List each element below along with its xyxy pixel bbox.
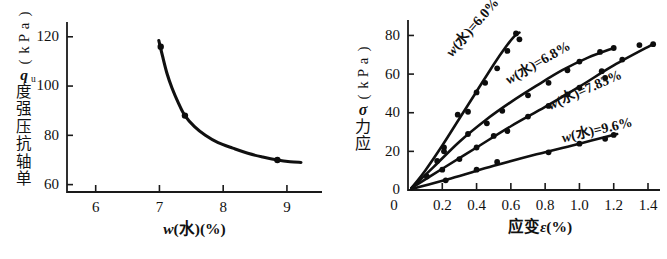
right-data-point [494,159,500,165]
right-data-point [565,67,571,73]
right-x-tick-label: 1.4 [639,197,658,213]
left-x-axis-title: w(水)(%) [163,219,226,238]
left-y-tick-label: 100 [37,77,60,93]
right-data-point [517,36,523,42]
right-series-group [411,45,616,188]
right-series-group [411,31,522,188]
right-data-point [650,41,656,47]
left-axes: 60801001206789 [37,22,323,215]
right-series-annotations: w(水)=6.0%w(水)=6.8%w(水)=7.83%w(水)=9.6% [442,0,634,146]
left-y-axis-title: 单轴抗压强度qu(kPa) [16,12,36,188]
left-y-axis-title-char: ( [16,60,33,65]
right-data-point [474,90,480,96]
right-data-point [441,148,447,154]
left-y-axis-title-char: k [16,46,32,54]
right-y-axis-title-char: ) [355,47,372,52]
chart-panel-right: 02040608000.20.40.60.81.01.21.4w(水)=6.0%… [330,0,667,259]
right-data-point [546,80,552,86]
right-x-tick-label: 1.2 [604,197,623,213]
left-y-axis-title-char: 轴 [16,153,32,170]
left-x-tick-label: 7 [156,199,164,215]
right-data-curve [411,134,617,189]
right-y-axis-title-char: P [355,69,371,77]
left-series-group [158,40,301,163]
right-data-point [443,177,449,183]
right-data-point [484,120,490,126]
right-x-tick-label: 1.0 [570,197,589,213]
left-x-tick-label: 6 [92,199,100,215]
right-data-point [546,149,552,155]
right-data-point [597,49,603,55]
right-y-tick-label: 0 [393,181,401,197]
right-data-point [525,92,531,98]
right-data-point [611,45,617,51]
right-data-point [474,145,480,151]
right-y-axis-title-char: k [355,81,371,89]
left-y-axis-title-char: a [16,22,32,29]
right-y-tick-label: 40 [385,104,400,120]
left-y-axis-title-char: 抗 [16,135,32,152]
right-chart-svg: 02040608000.20.40.60.81.01.21.4w(水)=6.0%… [330,0,667,259]
right-y-axis-title-char: ( [355,95,372,100]
right-y-axis-title-char: 应 [355,134,371,152]
left-y-axis-title-subscript: u [31,74,36,84]
series-label: w(水)=6.0% [442,0,502,60]
right-data-point [513,31,519,37]
right-data-point [465,131,471,137]
right-y-axis-title-char: 力 [355,118,371,135]
figure-container: 60801001206789w(水)(%)单轴抗压强度qu(kPa) 02040… [0,0,667,259]
left-y-axis-title-char: 单 [16,170,32,187]
right-data-point [494,65,500,71]
right-y-tick-label: 20 [385,143,400,159]
right-data-point [505,128,511,134]
left-data-point [158,43,164,49]
right-x-tick-label: 0.6 [501,197,520,213]
left-y-tick-label: 80 [44,127,59,143]
right-y-axis-title: 应力σ(kPa) [355,47,372,152]
chart-panel-left: 60801001206789w(水)(%)单轴抗压强度qu(kPa) [0,0,330,259]
left-data-point [274,157,280,163]
left-chart-svg: 60801001206789w(水)(%)单轴抗压强度qu(kPa) [0,0,330,259]
right-data-point [491,133,497,139]
right-data-point [455,112,461,118]
right-y-tick-label: 80 [385,27,400,43]
right-data-point [637,42,643,48]
right-data-point [577,59,583,65]
right-data-point [465,109,471,115]
right-x-tick-label: 0 [390,197,398,213]
right-y-tick-label: 60 [385,66,400,82]
right-data-point [474,167,480,173]
right-data-point [505,48,511,54]
right-series-group [411,132,617,189]
left-y-axis-title-char: 强 [16,100,32,117]
right-x-tick-label: 0.2 [433,197,452,213]
right-x-axis-title: 应变ε(%) [508,217,572,236]
left-x-tick-label: 8 [219,199,227,215]
left-y-tick-label: 60 [44,176,59,192]
left-y-axis-title-char: q [20,66,28,83]
left-y-axis-title-char: ) [16,12,33,17]
series-label: w(水)=9.6% [560,114,634,147]
right-data-point [499,108,505,114]
svg-text:w(水)(%): w(水)(%) [163,219,226,238]
left-data-curve [159,40,301,162]
left-y-axis-title-char: 压 [16,118,32,135]
right-x-tick-label: 0.4 [467,197,486,213]
left-data-point [182,112,188,118]
right-y-axis-title-char: σ [359,101,368,118]
right-data-point [619,57,625,63]
series-label: w(水)=6.8% [502,37,573,88]
right-data-point [525,114,531,120]
left-x-tick-label: 9 [283,199,291,215]
svg-text:应变ε(%): 应变ε(%) [508,217,572,236]
right-y-axis-title-char: a [355,57,371,64]
right-data-point [457,156,463,162]
right-data-point [439,167,445,173]
left-y-tick-label: 120 [37,28,60,44]
left-y-axis-title-char: 度 [16,83,32,100]
left-y-axis-title-char: P [16,34,32,42]
right-data-point [482,80,488,86]
right-x-tick-label: 0.8 [536,197,555,213]
right-data-point [602,136,608,142]
left-axis-lines [67,22,322,192]
